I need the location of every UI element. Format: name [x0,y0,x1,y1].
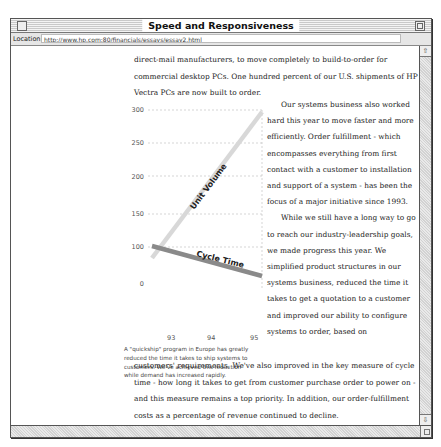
paragraph-text: customers' requirements. We've also impr… [134,358,419,424]
paragraph-text: While we still have a long way to go to … [267,210,417,340]
chart-plot-area: Unit Volume Cycle Time [124,98,264,338]
x-tick-94: 94 [207,334,215,342]
resize-grow-box-icon[interactable] [420,426,431,437]
cycle-time-chart: 300 250 200 150 100 0 Unit Volume Cycle … [124,98,264,348]
close-box-icon[interactable] [17,21,27,31]
scroll-up-arrow-icon[interactable]: ⇧ [420,46,431,57]
horizontal-scrollbar[interactable] [11,425,431,437]
unit-volume-label: Unit Volume [188,161,229,211]
article-paragraph-top: direct-mail manufacturers, to move compl… [134,52,419,102]
paragraph-text: Our systems business also worked hard th… [267,97,417,210]
browser-window: Speed and Responsiveness Location: http:… [10,18,432,438]
article-column-right: Our systems business also worked hard th… [267,97,417,340]
location-label: Location: [13,34,43,44]
window-title: Speed and Responsiveness [142,19,299,32]
article-paragraph-bottom: customers' requirements. We've also impr… [134,358,419,424]
page-content: direct-mail manufacturers, to move compl… [11,46,419,425]
paragraph-text: direct-mail manufacturers, to move compl… [134,52,419,102]
location-input[interactable]: http://www.hp.com:80/financials/essays/e… [41,34,401,43]
x-tick-95: 95 [250,334,258,342]
x-tick-93: 93 [167,334,175,342]
vertical-scrollbar[interactable]: ⇧ ⇩ [419,46,431,425]
scroll-down-arrow-icon[interactable]: ⇩ [420,414,431,425]
location-bar: Location: http://www.hp.com:80/financial… [11,33,431,46]
zoom-box-icon[interactable] [415,21,425,31]
title-bar[interactable]: Speed and Responsiveness [11,19,431,33]
